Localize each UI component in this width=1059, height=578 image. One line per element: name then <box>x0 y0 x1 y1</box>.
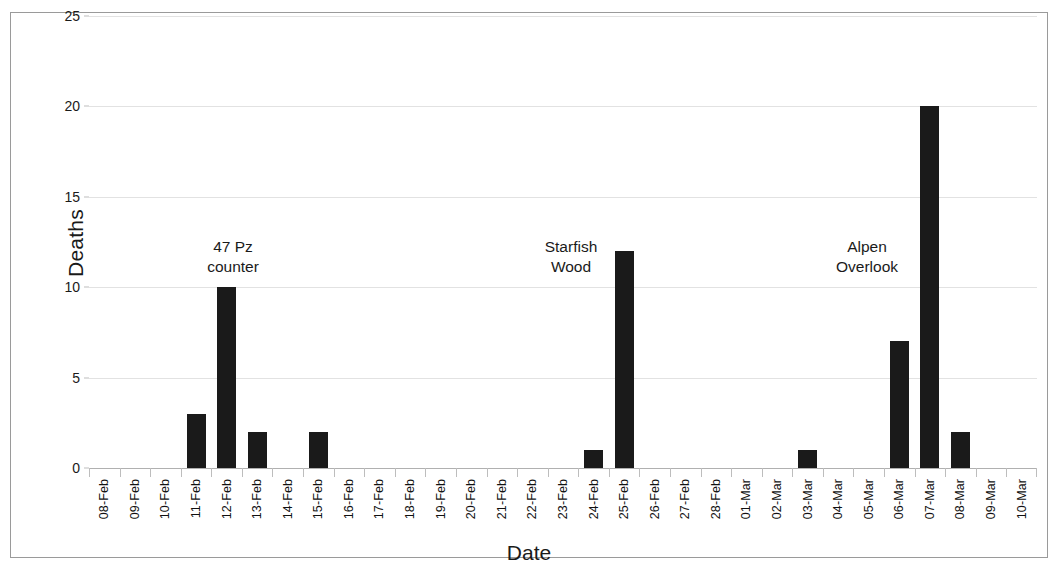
bar[interactable] <box>920 106 939 468</box>
y-tick-label: 25 <box>64 8 80 24</box>
x-tick-label: 22-Feb <box>525 479 539 519</box>
x-tick-cell <box>364 468 395 477</box>
x-tick-cell <box>884 468 915 477</box>
x-tick-cell <box>89 468 120 477</box>
x-tick-label: 20-Feb <box>464 479 478 519</box>
y-tick-label: 10 <box>64 279 80 295</box>
bar-slot <box>762 16 793 468</box>
bar-slot <box>303 16 334 468</box>
x-tick-label-cell: 15-Feb <box>303 479 334 541</box>
x-tick-label: 26-Feb <box>648 479 662 519</box>
y-tick-label: 20 <box>64 98 80 114</box>
x-tick-cell <box>517 468 548 477</box>
bar-slot <box>639 16 670 468</box>
bar[interactable] <box>951 432 970 468</box>
x-tick-cell <box>272 468 303 477</box>
bar[interactable] <box>798 450 817 468</box>
x-tick-label-cell: 10-Mar <box>1006 479 1037 541</box>
bar[interactable] <box>890 341 909 468</box>
x-tick-label: 09-Mar <box>984 479 998 519</box>
x-tick-label-cell: 09-Mar <box>976 479 1007 541</box>
annotation-alpen-overlook: Alpen Overlook <box>801 237 933 278</box>
x-tick-label: 19-Feb <box>434 479 448 519</box>
chart-frame: Deaths 0510152025 08-Feb09-Feb10-Feb11-F… <box>10 12 1048 558</box>
x-tick-cell <box>731 468 762 477</box>
x-tick-label-cell: 18-Feb <box>395 479 426 541</box>
x-tick-cell <box>915 468 946 477</box>
x-tick-cell <box>303 468 334 477</box>
x-tick-label: 12-Feb <box>220 479 234 519</box>
x-axis-title: Date <box>11 541 1047 565</box>
x-tick-label: 17-Feb <box>372 479 386 519</box>
x-tick-label-cell: 24-Feb <box>578 479 609 541</box>
x-tick-cell <box>242 468 273 477</box>
bar[interactable] <box>584 450 603 468</box>
x-tick-label: 08-Mar <box>953 479 967 519</box>
x-tick-label: 09-Feb <box>128 479 142 519</box>
x-tick-cell <box>456 468 487 477</box>
x-tick-label-cell: 22-Feb <box>517 479 548 541</box>
bar-slot <box>425 16 456 468</box>
x-tick-cell <box>792 468 823 477</box>
bar[interactable] <box>309 432 328 468</box>
x-tick-label-cell: 10-Feb <box>150 479 181 541</box>
x-tick-label-cell: 20-Feb <box>456 479 487 541</box>
x-tick-label: 06-Mar <box>892 479 906 519</box>
x-tick-label-cell: 16-Feb <box>334 479 365 541</box>
x-tick-label-cell: 19-Feb <box>425 479 456 541</box>
x-tick-cell <box>976 468 1007 477</box>
x-tick-label-cell: 08-Feb <box>89 479 120 541</box>
bar-slot <box>701 16 732 468</box>
x-tick-label-cell: 08-Mar <box>945 479 976 541</box>
x-tick-label: 01-Mar <box>739 479 753 519</box>
x-tick-label-cell: 06-Mar <box>884 479 915 541</box>
x-tick-label-cell: 05-Mar <box>853 479 884 541</box>
bar-slot <box>945 16 976 468</box>
x-tick-label: 10-Feb <box>158 479 172 519</box>
x-axis-tick-marks <box>89 468 1037 477</box>
bar-slot <box>395 16 426 468</box>
x-tick-label-cell: 13-Feb <box>242 479 273 541</box>
x-tick-label: 18-Feb <box>403 479 417 519</box>
x-tick-label: 10-Mar <box>1015 479 1029 519</box>
x-tick-label: 28-Feb <box>709 479 723 519</box>
bar-slot <box>89 16 120 468</box>
bar-slot <box>731 16 762 468</box>
x-tick-label: 13-Feb <box>250 479 264 519</box>
bar[interactable] <box>248 432 267 468</box>
annotation-47-pz-counter: 47 Pz counter <box>173 237 293 278</box>
y-tick-label: 15 <box>64 189 80 205</box>
bar[interactable] <box>615 251 634 468</box>
x-tick-label: 07-Mar <box>923 479 937 519</box>
x-tick-cell <box>395 468 426 477</box>
x-tick-cell <box>762 468 793 477</box>
bar[interactable] <box>187 414 206 468</box>
x-axis-tick-labels: 08-Feb09-Feb10-Feb11-Feb12-Feb13-Feb14-F… <box>89 479 1037 541</box>
x-tick-cell <box>670 468 701 477</box>
x-tick-cell <box>823 468 854 477</box>
x-tick-cell <box>181 468 212 477</box>
x-tick-label-cell: 07-Mar <box>915 479 946 541</box>
bar-slot <box>364 16 395 468</box>
x-tick-cell <box>548 468 579 477</box>
x-tick-cell <box>609 468 640 477</box>
x-tick-label-cell: 11-Feb <box>181 479 212 541</box>
x-tick-label-cell: 03-Mar <box>792 479 823 541</box>
x-tick-label: 08-Feb <box>97 479 111 519</box>
bar[interactable] <box>217 287 236 468</box>
bar-slot <box>456 16 487 468</box>
x-tick-label-cell: 12-Feb <box>211 479 242 541</box>
y-tick-label: 0 <box>72 460 80 476</box>
bar-slot <box>1006 16 1037 468</box>
x-tick-label: 16-Feb <box>342 479 356 519</box>
x-tick-cell <box>639 468 670 477</box>
x-tick-label: 02-Mar <box>770 479 784 519</box>
x-tick-cell <box>425 468 456 477</box>
x-tick-label: 15-Feb <box>311 479 325 519</box>
x-tick-cell <box>853 468 884 477</box>
x-tick-label-cell: 17-Feb <box>364 479 395 541</box>
x-tick-label-cell: 26-Feb <box>639 479 670 541</box>
x-tick-label: 05-Mar <box>862 479 876 519</box>
x-axis-end-tick <box>1036 468 1037 477</box>
x-tick-label: 03-Mar <box>801 479 815 519</box>
